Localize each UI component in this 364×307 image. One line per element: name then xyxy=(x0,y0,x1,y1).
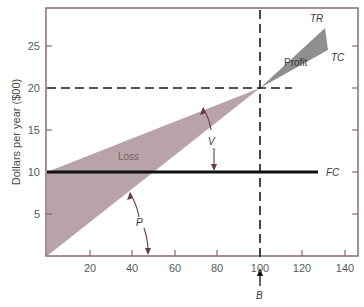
y-tick-10: 10 xyxy=(28,166,40,178)
x-tick-140: 140 xyxy=(336,262,354,274)
x-tick-120: 120 xyxy=(293,262,311,274)
b-label: B xyxy=(256,290,263,301)
y-tick-20: 20 xyxy=(28,82,40,94)
v-arrowhead-down xyxy=(211,164,217,171)
x-tick-20: 20 xyxy=(84,262,96,274)
x-tick-80: 80 xyxy=(211,262,223,274)
tr-label: TR xyxy=(310,13,323,24)
y-tick-15: 15 xyxy=(28,124,40,136)
y-tick-5: 5 xyxy=(34,208,40,220)
y-axis-label: Dollars per year ($00) xyxy=(10,79,22,185)
x-ticks xyxy=(90,250,345,256)
break-even-chart: 5 10 15 20 25 20 40 60 80 100 120 140 Do… xyxy=(0,0,364,307)
v-label: V xyxy=(208,136,216,147)
x-tick-60: 60 xyxy=(169,262,181,274)
tc-label: TC xyxy=(331,52,345,63)
fc-label: FC xyxy=(326,167,340,178)
p-label: P xyxy=(136,217,143,228)
x-tick-40: 40 xyxy=(126,262,138,274)
x-tick-100: 100 xyxy=(251,262,269,274)
loss-label: Loss xyxy=(118,151,139,162)
profit-label: Profit xyxy=(284,57,308,68)
y-tick-25: 25 xyxy=(28,40,40,52)
p-arrowhead-down xyxy=(145,248,151,255)
